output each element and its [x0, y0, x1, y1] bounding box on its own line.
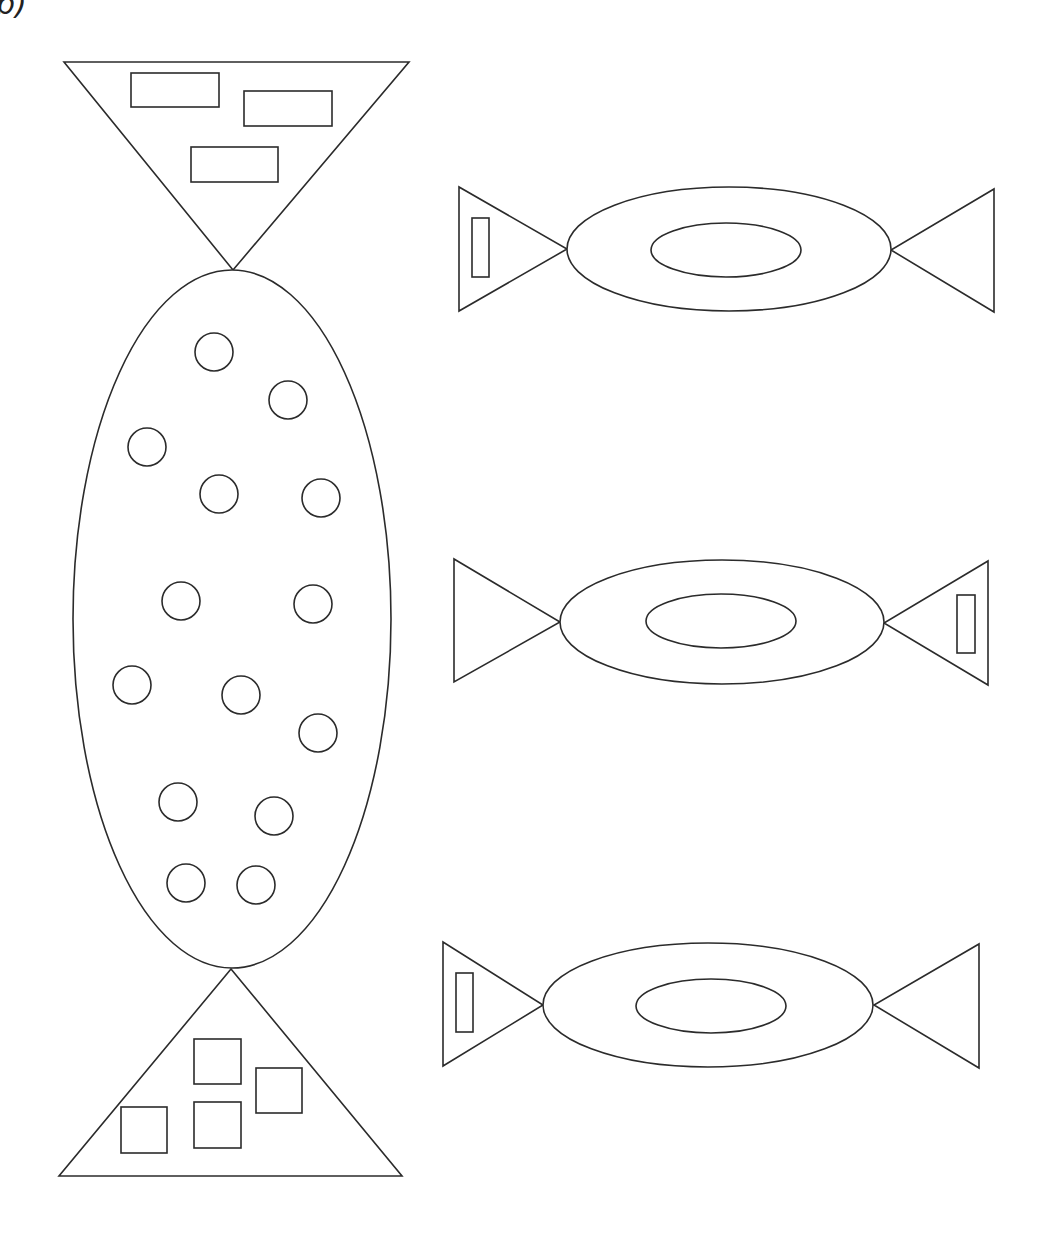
right-wrapper-triangle	[874, 944, 979, 1068]
circle-dot	[299, 714, 337, 752]
circle-dot	[255, 797, 293, 835]
circle-dot	[200, 475, 238, 513]
small-candies	[443, 187, 994, 1068]
rectangle-shape	[191, 147, 278, 182]
candy-inner-ellipse	[636, 979, 786, 1033]
large-candy	[59, 62, 409, 1176]
candy-2	[454, 559, 988, 685]
square-shape	[121, 1107, 167, 1153]
circle-dot	[128, 428, 166, 466]
rectangle-shape	[131, 73, 219, 107]
circle-dot	[237, 866, 275, 904]
circle-dot	[269, 381, 307, 419]
candy-diagram	[0, 0, 1046, 1249]
circle-dot	[302, 479, 340, 517]
square-shape	[256, 1068, 302, 1113]
wrapper-tag-rectangle	[472, 218, 489, 277]
wrapper-tag-rectangle	[957, 595, 975, 653]
circle-dot	[162, 582, 200, 620]
circle-dot	[222, 676, 260, 714]
right-wrapper-triangle	[891, 189, 994, 312]
candy-inner-ellipse	[651, 223, 801, 277]
rectangle-shape	[244, 91, 332, 126]
candy-3	[443, 942, 979, 1068]
square-shape	[194, 1039, 241, 1084]
circle-dot	[195, 333, 233, 371]
circle-dot	[167, 864, 205, 902]
circle-dot	[113, 666, 151, 704]
square-shape	[194, 1102, 241, 1148]
left-wrapper-triangle	[454, 559, 560, 682]
wrapper-tag-rectangle	[456, 973, 473, 1032]
circle-dot	[159, 783, 197, 821]
circle-dot	[294, 585, 332, 623]
candy-1	[459, 187, 994, 312]
candy-inner-ellipse	[646, 594, 796, 648]
large-candy-body-ellipse	[73, 270, 391, 968]
